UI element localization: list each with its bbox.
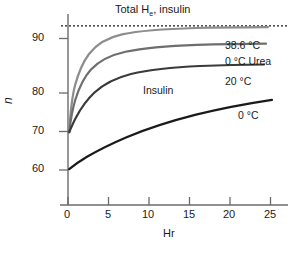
x-axis-title: Hr xyxy=(163,228,175,239)
x-tick-label-0: 0 xyxy=(64,209,70,220)
x-axis-ticks xyxy=(68,197,271,205)
y-tick-label-90: 90 xyxy=(32,32,44,43)
curve-label-20c: 20 °C xyxy=(225,76,251,87)
x-tick-label-20: 20 xyxy=(223,209,235,220)
total-he-suffix: , insulin xyxy=(153,3,190,15)
y-tick-label-80: 80 xyxy=(32,86,44,97)
curve-label-38-6c: 38.6 °C xyxy=(225,40,260,51)
x-tick-label-10: 10 xyxy=(142,209,154,220)
x-tick-label-25: 25 xyxy=(264,209,276,220)
total-he-insulin-label: Total He, insulin xyxy=(115,4,190,17)
y-axis-ticks xyxy=(59,39,68,171)
total-he-text: Total H xyxy=(115,3,149,15)
figure-root: Total He, insulin n 90 80 70 60 0 5 10 1… xyxy=(0,0,294,256)
curve-label-0c: 0 °C xyxy=(238,110,259,121)
y-axis-title: n xyxy=(1,97,15,104)
insulin-group-label: Insulin xyxy=(143,85,173,96)
x-tick-label-15: 15 xyxy=(183,209,195,220)
y-tick-label-70: 70 xyxy=(32,125,44,136)
curve-label-0c-urea: 0 °C Urea xyxy=(225,56,271,67)
x-tick-label-5: 5 xyxy=(105,209,111,220)
y-tick-label-60: 60 xyxy=(32,163,44,174)
